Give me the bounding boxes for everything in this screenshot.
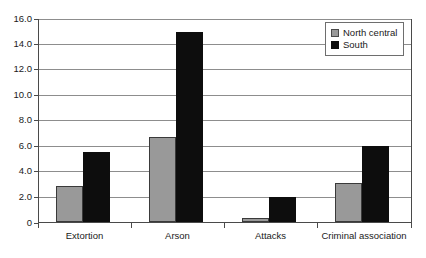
x-axis-tick-0 [38, 223, 39, 228]
chart-legend: North central South [325, 22, 404, 56]
y-axis-tick-label: 10.0 [14, 90, 33, 100]
legend-label-north-central: North central [343, 28, 397, 38]
y-axis-tick-mark [34, 95, 38, 96]
y-axis-tick-label: 6.0 [19, 141, 32, 151]
y-axis-tick-label: 0 [27, 218, 32, 228]
y-axis-tick-0: 0 [0, 223, 38, 224]
y-axis-tick-label: 12.0 [14, 64, 33, 74]
legend-item-north-central: North central [331, 27, 397, 39]
x-axis-tick-2 [224, 223, 225, 228]
x-axis-label-arson: Arson [131, 231, 224, 241]
x-axis-tick-1 [131, 223, 132, 228]
gridline-10 [39, 95, 411, 96]
y-axis-tick-label: 4.0 [19, 166, 32, 176]
bar-attacks-south [269, 197, 296, 222]
y-axis-tick-label: 16.0 [14, 14, 33, 24]
legend-swatch-south [331, 41, 339, 49]
x-axis-label-criminal-association: Criminal association [317, 231, 411, 241]
gridline-6 [39, 146, 411, 147]
y-axis-tick-14: 14.0 [0, 44, 38, 45]
legend-label-south: South [343, 40, 368, 50]
x-axis-tick-4 [411, 223, 412, 228]
y-axis-tick-mark [34, 69, 38, 70]
bar-arson-north-central [149, 137, 176, 222]
y-axis-tick-mark [34, 171, 38, 172]
bar-criminal-association-south [362, 146, 389, 222]
y-axis-tick-10: 10.0 [0, 95, 38, 96]
gridline-16 [39, 19, 411, 20]
y-axis-tick-mark [34, 146, 38, 147]
y-axis-tick-6: 6.0 [0, 146, 38, 147]
y-axis-tick-label: 14.0 [14, 39, 33, 49]
gridline-8 [39, 120, 411, 121]
x-axis-tick-3 [317, 223, 318, 228]
x-axis-label-extortion: Extortion [38, 231, 131, 241]
y-axis-tick-4: 4.0 [0, 171, 38, 172]
y-axis-tick-mark [34, 120, 38, 121]
bar-extortion-north-central [56, 186, 83, 222]
y-axis-tick-12: 12.0 [0, 69, 38, 70]
y-axis-tick-label: 8.0 [19, 115, 32, 125]
bar-extortion-south [83, 152, 110, 222]
y-axis-tick-2: 2.0 [0, 197, 38, 198]
bar-arson-south [176, 32, 203, 222]
bar-chart: 16.0 14.0 12.0 10.0 8.0 6.0 4.0 2.0 0 Ex… [0, 0, 426, 258]
gridline-12 [39, 69, 411, 70]
legend-swatch-north-central [331, 29, 339, 37]
y-axis-tick-16: 16.0 [0, 19, 38, 20]
y-axis-tick-mark [34, 197, 38, 198]
legend-item-south: South [331, 39, 397, 51]
y-axis-tick-label: 2.0 [19, 192, 32, 202]
y-axis-tick-8: 8.0 [0, 120, 38, 121]
bar-attacks-north-central [242, 218, 269, 222]
y-axis-tick-mark [34, 44, 38, 45]
y-axis-tick-mark [34, 19, 38, 20]
bar-criminal-association-north-central [335, 183, 362, 222]
x-axis-label-attacks: Attacks [224, 231, 317, 241]
